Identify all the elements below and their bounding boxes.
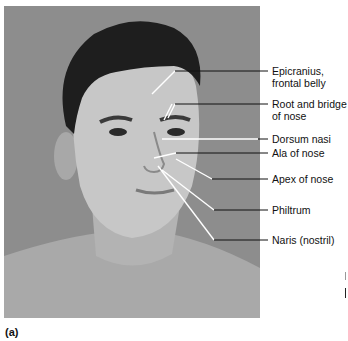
label-apex-of-nose: Apex of nose [272,173,333,185]
label-epicranius-line2: frontal belly [272,77,326,89]
panel-label: (a) [5,326,18,338]
edge-mark [345,272,346,280]
leader-lines [0,0,348,341]
label-root-bridge-line2: of nose [272,110,347,122]
label-dorsum-nasi: Dorsum nasi [272,133,331,145]
label-epicranius: Epicranius, frontal belly [272,65,326,89]
label-root-bridge: Root and bridge of nose [272,98,347,122]
label-naris: Naris (nostril) [272,234,334,246]
label-philtrum: Philtrum [272,204,311,216]
label-ala-of-nose: Ala of nose [272,147,325,159]
edge-mark [345,288,346,298]
label-epicranius-line1: Epicranius, [272,65,326,77]
label-root-bridge-line1: Root and bridge [272,98,347,110]
